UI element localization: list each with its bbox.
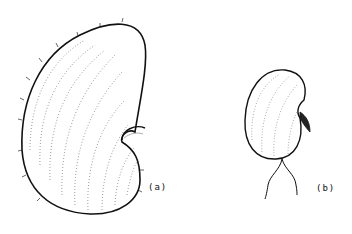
seed-a-drawing [18, 18, 146, 214]
panel-b-label: (b) [316, 183, 335, 193]
panel-a-label: (a) [148, 182, 167, 192]
seed-b-drawing [245, 70, 310, 199]
figure-illustration [0, 0, 352, 234]
